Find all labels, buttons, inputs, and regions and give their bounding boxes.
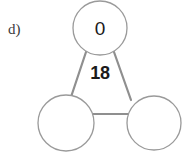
triangle-center-value: 18 [72, 64, 128, 82]
node-value-top[interactable]: 0 [72, 19, 128, 38]
node-circle-bottom-right[interactable] [127, 96, 181, 150]
worksheet-problem: d) 0 18 [0, 0, 183, 152]
node-circle-bottom-left[interactable] [38, 95, 94, 151]
